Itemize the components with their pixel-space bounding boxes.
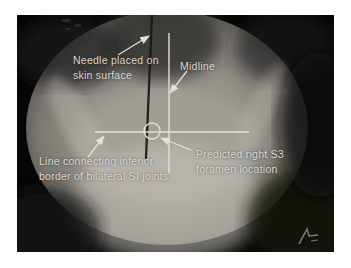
figure-page: Needle placed on skin surface Midline Li…: [0, 0, 351, 268]
xray-graphic: [17, 15, 334, 252]
radiograph-background: [17, 15, 334, 252]
fluoroscopy-image: Needle placed on skin surface Midline Li…: [17, 15, 334, 252]
